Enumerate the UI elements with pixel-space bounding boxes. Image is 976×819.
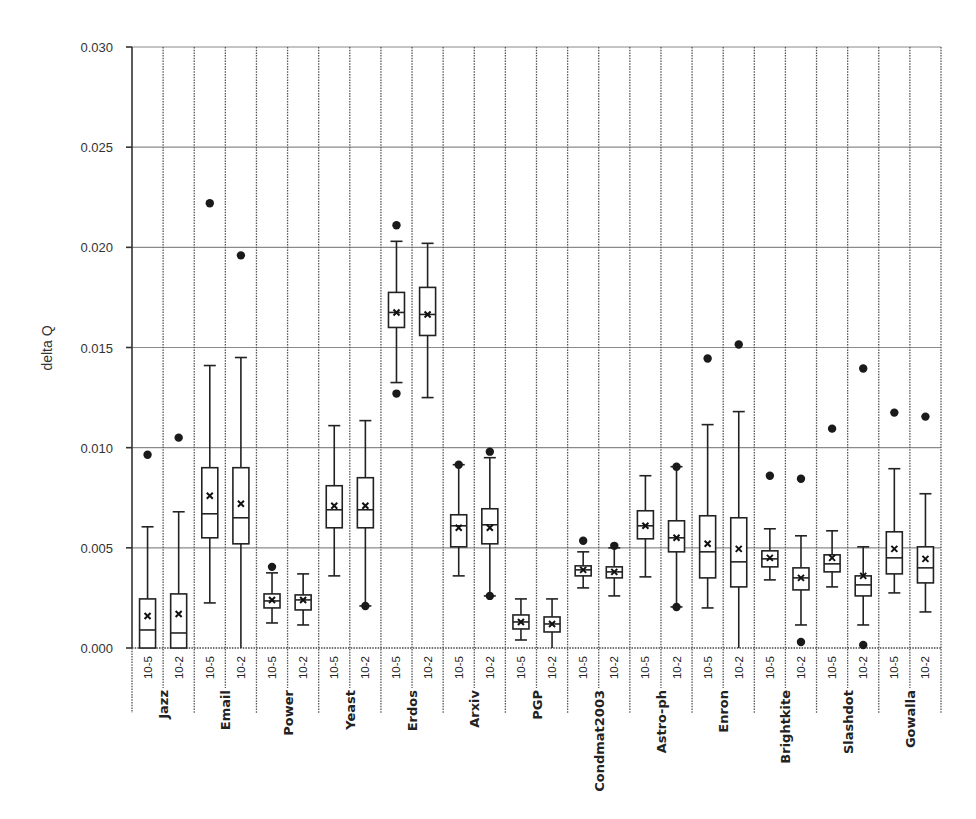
sub-category-label: 10-2 xyxy=(484,656,496,679)
outlier-point xyxy=(455,460,463,468)
iqr-box xyxy=(171,594,187,648)
box-gowalla-10-5 xyxy=(886,408,902,593)
box-brightkite-10-5 xyxy=(762,472,778,580)
y-axis: 0.0000.0050.0100.0150.0200.0250.030 xyxy=(80,40,132,656)
group-label-yeast: Yeast xyxy=(343,690,358,731)
box-arxiv-10-2 xyxy=(482,447,498,600)
group-label-power: Power xyxy=(281,689,296,735)
iqr-box xyxy=(233,468,249,544)
box-condmat2003-10-2 xyxy=(606,542,622,596)
sub-category-label: 10-2 xyxy=(359,656,371,679)
sub-category-label: 10-5 xyxy=(328,656,340,679)
outlier-point xyxy=(859,641,867,649)
box-pgp-10-5 xyxy=(513,599,529,640)
outlier-point xyxy=(206,199,214,207)
sub-category-label: 10-2 xyxy=(297,656,309,679)
sub-category-label: 10-2 xyxy=(173,656,185,679)
iqr-box xyxy=(420,287,436,335)
sub-category-label: 10-5 xyxy=(266,656,278,679)
group-label-condmat2003: Condmat2003 xyxy=(592,690,607,792)
sub-category-label: 10-2 xyxy=(919,656,931,679)
sub-category-label: 10-5 xyxy=(888,656,900,679)
group-label-slashdot: Slashdot xyxy=(841,690,856,754)
iqr-box xyxy=(700,516,716,578)
sub-category-label: 10-5 xyxy=(204,656,216,679)
chart-canvas: 0.0000.0050.0100.0150.0200.0250.030 10-5… xyxy=(0,0,976,819)
sub-category-label: 10-5 xyxy=(390,656,402,679)
outlier-point xyxy=(579,537,587,545)
outlier-point xyxy=(921,412,929,420)
sub-category-label: 10-5 xyxy=(639,656,651,679)
box-slashdot-10-2 xyxy=(855,364,871,649)
sub-category-label: 10-5 xyxy=(515,656,527,679)
outlier-point xyxy=(392,221,400,229)
group-label-pgp: PGP xyxy=(530,690,545,720)
iqr-box xyxy=(202,468,218,538)
sub-category-label: 10-2 xyxy=(546,656,558,679)
iqr-box xyxy=(451,515,467,547)
iqr-box xyxy=(917,547,933,583)
outlier-point xyxy=(610,542,618,550)
sub-category-label: 10-5 xyxy=(142,656,154,679)
outlier-point xyxy=(766,472,774,480)
sub-category-label: 10-5 xyxy=(577,656,589,679)
outlier-point xyxy=(703,354,711,362)
outlier-point xyxy=(392,389,400,397)
box-jazz-10-5 xyxy=(140,450,156,648)
outlier-point xyxy=(735,340,743,348)
outlier-point xyxy=(237,251,245,259)
sub-category-label: 10-2 xyxy=(235,656,247,679)
iqr-box xyxy=(669,521,685,552)
outlier-point xyxy=(672,603,680,611)
box-condmat2003-10-5 xyxy=(575,537,591,588)
group-label-erdos: Erdos xyxy=(405,690,420,732)
y-tick-label: 0.025 xyxy=(80,140,113,155)
sub-category-label: 10-2 xyxy=(671,656,683,679)
sub-category-label: 10-2 xyxy=(795,656,807,679)
iqr-box xyxy=(731,518,747,587)
box-yeast-10-2 xyxy=(357,421,373,611)
box-arxiv-10-5 xyxy=(451,460,467,575)
box-erdos-10-2 xyxy=(420,243,436,397)
outlier-point xyxy=(486,592,494,600)
box-jazz-10-2 xyxy=(171,433,187,648)
iqr-box xyxy=(855,576,871,596)
group-label-enron: Enron xyxy=(716,690,731,733)
sub-category-label: 10-2 xyxy=(422,656,434,679)
box-slashdot-10-5 xyxy=(824,424,840,586)
iqr-box xyxy=(886,532,902,574)
box-astro-ph-10-2 xyxy=(669,462,685,611)
box-enron-10-5 xyxy=(700,354,716,608)
iqr-box xyxy=(140,599,156,648)
outlier-point xyxy=(174,433,182,441)
box-pgp-10-2 xyxy=(544,599,560,648)
group-label-arxiv: Arxiv xyxy=(467,689,482,727)
iqr-box xyxy=(295,595,311,610)
outlier-point xyxy=(361,602,369,610)
sub-category-label: 10-5 xyxy=(453,656,465,679)
iqr-box xyxy=(482,509,498,544)
y-axis-title: delta Q xyxy=(39,325,55,370)
group-label-jazz: Jazz xyxy=(156,690,171,720)
box-gowalla-10-2 xyxy=(917,412,933,612)
outlier-point xyxy=(143,450,151,458)
sub-category-label: 10-2 xyxy=(608,656,620,679)
iqr-box xyxy=(357,478,373,528)
y-tick-label: 0.030 xyxy=(80,40,113,55)
y-tick-label: 0.010 xyxy=(80,441,113,456)
group-label-email: Email xyxy=(218,690,233,730)
outlier-point xyxy=(486,447,494,455)
box-email-10-5 xyxy=(202,199,218,603)
iqr-box xyxy=(388,292,404,327)
sub-category-label: 10-5 xyxy=(764,656,776,679)
box-email-10-2 xyxy=(233,251,249,648)
box-enron-10-2 xyxy=(731,340,747,648)
outlier-point xyxy=(828,424,836,432)
sub-category-label: 10-5 xyxy=(826,656,838,679)
group-label-brightkite: Brightkite xyxy=(778,690,793,764)
group-label-astro-ph: Astro-ph xyxy=(654,690,669,753)
y-tick-label: 0.020 xyxy=(80,240,113,255)
outlier-point xyxy=(890,408,898,416)
sub-category-label: 10-2 xyxy=(857,656,869,679)
outlier-point xyxy=(268,563,276,571)
